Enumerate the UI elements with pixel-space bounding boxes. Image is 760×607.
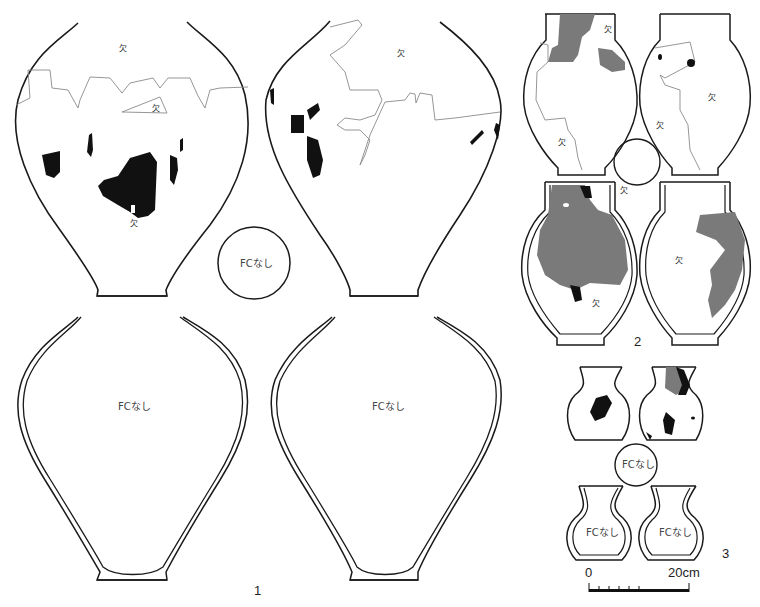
missing-label: 欠 <box>558 137 566 147</box>
no-fire-cloud-label: FCなし <box>240 258 273 269</box>
group-3: FCなし FCなし FCなし 3 <box>567 367 729 561</box>
figure-number-1: 1 <box>254 583 261 598</box>
vessel-2-exterior-left: 欠 欠 <box>524 14 637 175</box>
group-1: 欠 欠 欠 欠 FCなし FCなし <box>16 20 502 598</box>
no-fire-cloud-label: FCなし <box>622 459 655 470</box>
no-fire-cloud-label: FCなし <box>372 401 405 412</box>
vessel-3-interior-right: FCなし <box>639 486 703 560</box>
vessel-1-interior-left: FCなし <box>18 317 248 580</box>
missing-label: 欠 <box>656 120 664 130</box>
no-fire-cloud-label: FCなし <box>586 527 619 538</box>
vessel-1-exterior-left: 欠 欠 欠 <box>16 22 249 296</box>
vessel-3-base: FCなし <box>615 444 657 486</box>
figure-number-2: 2 <box>634 334 641 349</box>
missing-label: 欠 <box>119 43 127 53</box>
missing-label: 欠 <box>130 218 138 228</box>
group-2: 欠 欠 欠 欠 欠 欠 <box>522 14 751 349</box>
vessel-3-exterior-left <box>568 367 630 440</box>
scale-start-label: 0 <box>585 565 592 580</box>
vessel-1-interior-right: FCなし <box>271 317 501 580</box>
vessel-2-interior-left: 欠 <box>522 182 637 345</box>
missing-label: 欠 <box>604 24 612 34</box>
missing-label: 欠 <box>708 92 716 102</box>
missing-label: 欠 <box>592 298 600 308</box>
vessel-2-exterior-right: 欠 欠 <box>640 14 751 175</box>
no-fire-cloud-label: FCなし <box>659 527 692 538</box>
missing-label: 欠 <box>152 103 160 113</box>
vessel-1-exterior-right: 欠 <box>266 20 501 296</box>
vessel-2-interior-right: 欠 <box>640 182 751 345</box>
missing-label: 欠 <box>397 48 405 58</box>
vessel-3-exterior-right <box>640 367 703 440</box>
missing-label: 欠 <box>620 185 628 195</box>
vessel-drawing-figure: 欠 欠 欠 欠 FCなし FCなし <box>0 0 760 607</box>
vessel-3-interior-left: FCなし <box>567 486 631 560</box>
no-fire-cloud-label: FCなし <box>118 401 151 412</box>
missing-label: 欠 <box>675 255 683 265</box>
scale-end-label: 20cm <box>668 565 700 580</box>
scale-bar: 0 20cm <box>585 565 700 592</box>
vessel-1-base: FCなし <box>218 227 290 299</box>
figure-number-3: 3 <box>722 546 729 561</box>
